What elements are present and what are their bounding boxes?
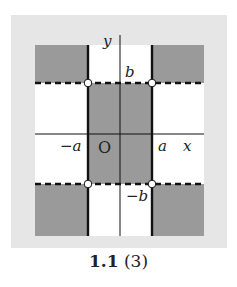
- tick-label-b: b: [125, 63, 135, 81]
- point-a-b: [148, 79, 156, 87]
- figure-caption: 1.1 (3): [0, 251, 237, 271]
- region-top-right: [152, 45, 204, 83]
- point-neg-a-neg-b: [84, 180, 92, 188]
- region-top-left: [35, 45, 88, 83]
- tick-label-neg-a: −a: [60, 137, 82, 155]
- point-neg-a-b: [84, 79, 92, 87]
- y-axis-label: y: [102, 32, 112, 50]
- x-axis-label: x: [183, 137, 192, 155]
- region-bottom-left: [35, 184, 88, 236]
- tick-label-neg-b: −b: [126, 187, 148, 205]
- diagram: y x O b −b a −a: [0, 0, 237, 250]
- origin-label: O: [98, 138, 111, 157]
- point-a-neg-b: [148, 180, 156, 188]
- caption-number: 1.1: [89, 251, 119, 271]
- region-bottom-right: [152, 184, 204, 236]
- caption-sub: (3): [124, 251, 148, 271]
- tick-label-a: a: [158, 137, 167, 155]
